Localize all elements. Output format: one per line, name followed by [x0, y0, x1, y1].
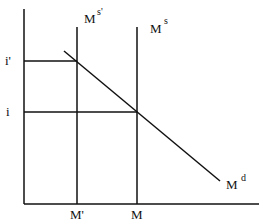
y-tick-label-i-prime: i': [5, 53, 11, 68]
svg-text:s': s': [97, 6, 103, 17]
svg-text:M: M: [150, 21, 162, 36]
label-money-supply: M s: [150, 15, 168, 36]
y-tick-label-i: i: [6, 104, 10, 119]
x-tick-label-m: M: [131, 207, 143, 222]
label-money-supply-new: M s': [84, 6, 103, 26]
svg-text:d: d: [241, 172, 246, 183]
money-demand-line: [64, 51, 220, 181]
svg-text:M: M: [226, 177, 238, 192]
label-money-demand: M d: [226, 172, 246, 192]
money-market-diagram: i' i M' M M s' M s M d: [0, 0, 259, 222]
x-tick-label-m-prime: M': [70, 207, 84, 222]
svg-text:M: M: [84, 11, 96, 26]
svg-text:s: s: [164, 15, 168, 26]
